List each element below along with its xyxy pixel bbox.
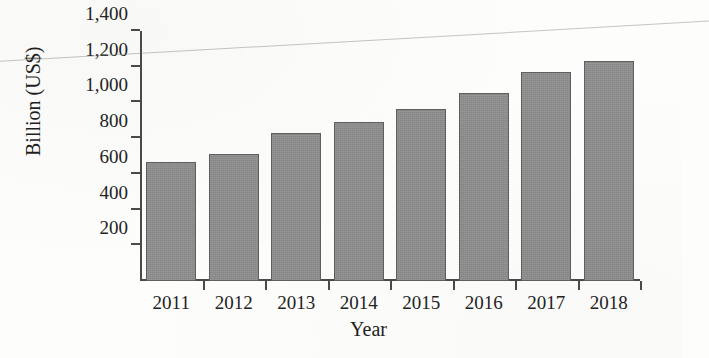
y-axis-tick [131, 172, 140, 174]
x-axis-tick-label: 2016 [465, 293, 503, 312]
y-axis-tick-label: 1,200 [85, 39, 128, 58]
y-axis-tick [131, 243, 140, 245]
y-axis-tick-label: 1,400 [85, 4, 128, 23]
x-axis-tick [453, 281, 455, 290]
x-axis-tick-label: 2012 [215, 293, 253, 312]
x-axis-tick [265, 281, 267, 290]
x-axis-tick-label: 2015 [402, 293, 440, 312]
bar [209, 154, 259, 281]
y-axis-tick [131, 29, 140, 31]
y-axis-tick-label: 200 [100, 218, 129, 237]
plot-area: 2004006008001,0001,2001,400 201120122013… [140, 31, 640, 281]
x-axis-tick-label: 2013 [277, 293, 315, 312]
y-axis-tick-label: 1,000 [85, 75, 128, 94]
x-axis-tick [390, 281, 392, 290]
bar [146, 162, 196, 281]
y-axis-tick [131, 208, 140, 210]
bar [334, 122, 384, 281]
y-axis-tick [131, 100, 140, 102]
y-axis-line [140, 31, 142, 281]
bar [271, 133, 321, 281]
bar [584, 61, 634, 281]
bar [396, 109, 446, 281]
x-axis-title: Year [0, 318, 682, 341]
y-axis-tick [131, 65, 140, 67]
bar [459, 93, 509, 281]
x-axis-tick-label: 2018 [590, 293, 628, 312]
y-axis-tick [131, 136, 140, 138]
y-axis-tick-label: 800 [100, 111, 129, 130]
x-axis-tick-label: 2017 [527, 293, 565, 312]
x-axis-tick [515, 281, 517, 290]
y-axis-tick-label: 400 [100, 182, 129, 201]
x-axis-tick [328, 281, 330, 290]
x-axis-tick [203, 281, 205, 290]
x-axis-tick [640, 281, 642, 290]
x-axis-tick-label: 2014 [340, 293, 378, 312]
y-axis-title: Billion (US$) [22, 47, 45, 156]
y-axis-tick-label: 600 [100, 146, 129, 165]
x-axis-tick [578, 281, 580, 290]
x-axis-tick-label: 2011 [153, 293, 190, 312]
bar [521, 72, 571, 281]
